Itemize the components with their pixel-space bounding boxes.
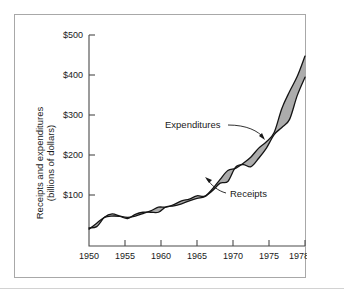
y-axis-title: Receipts and expenditures (billions of d… bbox=[34, 107, 56, 220]
y-tick-label-100: $100 bbox=[63, 190, 83, 200]
x-tick-label-1975: 1975 bbox=[259, 251, 279, 261]
y-tick-label-200: $200 bbox=[63, 150, 83, 160]
x-tick-label-1950: 1950 bbox=[79, 251, 99, 261]
x-tick-label-1970: 1970 bbox=[223, 251, 243, 261]
expenditures-line bbox=[89, 56, 305, 228]
x-tick-label-1965: 1965 bbox=[187, 251, 207, 261]
y-tick-marks bbox=[89, 35, 95, 195]
chart-plot: Receipts and expenditures (billions of d… bbox=[15, 15, 307, 279]
y-tick-label-500: $500 bbox=[63, 30, 83, 40]
y-tick-label-300: $300 bbox=[63, 110, 83, 120]
x-tick-label-1978: 1978 bbox=[289, 251, 307, 261]
annotation-expenditures: Expenditures bbox=[165, 119, 265, 140]
expenditures-label: Expenditures bbox=[165, 119, 221, 130]
y-axis-title-line1: Receipts and expenditures bbox=[34, 107, 45, 220]
y-tick-label-400: $400 bbox=[63, 70, 83, 80]
axis-lines bbox=[89, 35, 305, 246]
receipts-label: Receipts bbox=[230, 188, 267, 199]
x-tick-label-1955: 1955 bbox=[115, 251, 135, 261]
y-axis-title-line2: (billions of dollars) bbox=[45, 125, 56, 202]
series-gap-band bbox=[89, 56, 305, 229]
receipts-line bbox=[89, 77, 305, 229]
figure-frame: Receipts and expenditures (billions of d… bbox=[14, 14, 306, 278]
x-tick-label-1960: 1960 bbox=[151, 251, 171, 261]
page-divider-rule bbox=[0, 288, 344, 289]
x-tick-marks bbox=[125, 240, 305, 246]
